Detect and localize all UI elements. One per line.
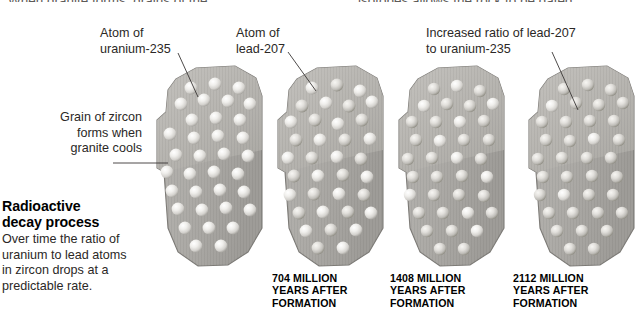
leader-uranium: [178, 53, 198, 97]
caption-2112-million: 2112 MILLION YEARS AFTER FORMATION: [513, 272, 588, 309]
radioactive-decay-block: Radioactive decay process Over time the …: [2, 198, 147, 294]
zircon-grain-1: [157, 66, 262, 266]
clipped-text-left: When granite forms, grains of the: [8, 0, 208, 2]
leader-ratio: [552, 52, 578, 110]
figure-canvas: When granite forms, grains of the isotop…: [0, 0, 643, 327]
label-grain-of-zircon: Grain of zircon forms when granite cools: [32, 110, 142, 157]
caption-1408-million: 1408 MILLION YEARS AFTER FORMATION: [390, 272, 465, 309]
label-atom-of-lead: Atom of lead-207: [236, 26, 285, 57]
caption-704-million: 704 MILLION YEARS AFTER FORMATION: [272, 272, 347, 309]
zircon-grain-4: [529, 66, 634, 266]
decay-process-title: Radioactive decay process: [2, 198, 147, 230]
atoms-grain-4: [532, 79, 629, 255]
leader-lead: [288, 52, 316, 91]
zircon-grain-2: [278, 66, 383, 266]
atoms-grain-3: [402, 80, 499, 255]
atoms-grain-2: [282, 79, 379, 255]
clipped-text-right: isotopes allows the rock to be dated.: [358, 0, 576, 2]
label-increased-ratio: Increased ratio of lead-207 to uranium-2…: [426, 26, 576, 57]
zircon-grain-3: [399, 66, 504, 266]
leader-lines: [113, 52, 578, 163]
atoms-grain-1: [161, 78, 257, 253]
decay-process-body: Over time the ratio of uranium to lead a…: [2, 232, 147, 294]
label-atom-of-uranium: Atom of uranium-235: [100, 26, 171, 57]
